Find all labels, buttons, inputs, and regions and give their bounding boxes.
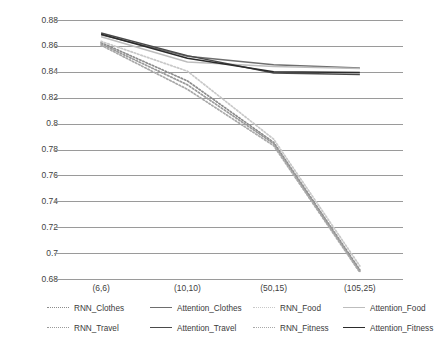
legend-label: RNN_Clothes xyxy=(74,304,124,313)
plot-area: 0.880.860.840.820.80.780.760.740.720.70.… xyxy=(0,0,439,292)
legend-item[interactable]: Attention_Clothes xyxy=(150,300,242,316)
series-line xyxy=(101,43,360,270)
legend-line-swatch-icon xyxy=(253,323,275,333)
legend-item[interactable]: Attention_Travel xyxy=(150,320,236,336)
legend-item[interactable]: Attention_Food xyxy=(343,300,426,316)
legend-item[interactable]: RNN_Fitness xyxy=(253,320,329,336)
x-tick-label: (105,25) xyxy=(325,283,395,293)
legend-line-swatch-icon xyxy=(47,303,69,313)
legend-line-swatch-icon xyxy=(343,323,365,333)
x-tick-label: (6,6) xyxy=(66,283,136,293)
legend-label: RNN_Fitness xyxy=(280,324,329,333)
legend-line-swatch-icon xyxy=(47,323,69,333)
series-lines xyxy=(0,0,439,292)
legend-label: RNN_Travel xyxy=(74,324,119,333)
legend-label: Attention_Travel xyxy=(177,324,236,333)
legend-row: RNN_ClothesAttention_ClothesRNN_FoodAtte… xyxy=(0,300,439,316)
chart-legend: RNN_ClothesAttention_ClothesRNN_FoodAtte… xyxy=(0,300,439,342)
legend-line-swatch-icon xyxy=(150,303,172,313)
legend-row: RNN_TravelAttention_TravelRNN_FitnessAtt… xyxy=(0,320,439,336)
legend-item[interactable]: RNN_Food xyxy=(253,300,321,316)
legend-line-swatch-icon xyxy=(253,303,275,313)
series-line xyxy=(101,45,360,272)
legend-line-swatch-icon xyxy=(343,303,365,313)
legend-line-swatch-icon xyxy=(150,323,172,333)
legend-item[interactable]: RNN_Travel xyxy=(47,320,119,336)
series-line xyxy=(101,44,360,271)
legend-label: Attention_Clothes xyxy=(177,304,242,313)
x-tick-label: (10,10) xyxy=(152,283,222,293)
x-tick-label: (50,15) xyxy=(239,283,309,293)
legend-item[interactable]: RNN_Clothes xyxy=(47,300,124,316)
legend-item[interactable]: Attention_Fitness xyxy=(343,320,433,336)
legend-label: Attention_Fitness xyxy=(370,324,433,333)
legend-label: RNN_Food xyxy=(280,304,321,313)
legend-label: Attention_Food xyxy=(370,304,426,313)
series-line xyxy=(101,41,360,266)
chart-root: 0.880.860.840.820.80.780.760.740.720.70.… xyxy=(0,0,439,344)
